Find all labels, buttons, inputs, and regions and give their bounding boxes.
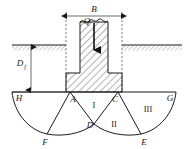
load-label-Q: Q [84, 16, 91, 26]
depth-label-D: D [16, 58, 24, 68]
point-label-C: C [112, 94, 119, 104]
radial-shear-lines [47, 92, 141, 134]
depth-label-subscript-f: f [24, 64, 27, 70]
point-label-G: G [167, 93, 174, 103]
dimension-label-B: B [91, 4, 97, 14]
log-spiral-arcs [47, 124, 141, 135]
figure-canvas: B Q D f [0, 0, 188, 149]
bearing-capacity-figure: B Q D f [0, 0, 188, 149]
point-label-F: F [41, 137, 48, 147]
zone-label-2: II [111, 119, 117, 129]
point-label-D: D [86, 120, 94, 130]
point-label-A: A [69, 94, 76, 104]
zone-label-3: III [144, 104, 153, 114]
point-label-H: H [15, 93, 23, 103]
point-label-E: E [140, 137, 147, 147]
zone-label-1: I [93, 100, 96, 110]
depth-dimension-Df [12, 47, 66, 92]
